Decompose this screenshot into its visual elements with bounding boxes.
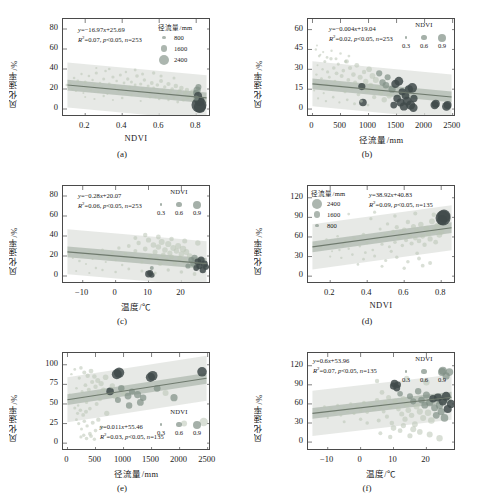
legend-title-e: NDVI — [154, 408, 204, 415]
legend-dot-e-1 — [176, 422, 181, 427]
legend-bubbles-f — [399, 362, 449, 376]
y-tick-b-4: 60 — [271, 23, 303, 33]
legend-dot-c-0 — [160, 203, 163, 206]
y-tick-e-1: 25 — [26, 417, 58, 427]
legend-bubble-d-2 — [311, 224, 323, 228]
y-axis-label-e: 风化速率/% — [8, 362, 20, 442]
legend-value-b-0: 0.3 — [399, 42, 413, 49]
equation-text-a: y=−16.97x+25.69 — [78, 25, 142, 35]
y-tick-f-2: 60 — [271, 397, 303, 407]
legend-row-a-0: 800 — [158, 32, 192, 43]
legend-value-f-0: 0.3 — [399, 376, 413, 383]
legend-dot-d-1 — [314, 211, 321, 218]
legend-row-d-0: 2400 — [311, 198, 345, 209]
panel-c: 风化速率/%020406080−1001020温度/℃(c)y=−0.28x+2… — [0, 167, 244, 334]
panel-label-e: (e) — [0, 483, 244, 493]
legend-value-f-2: 0.9 — [435, 376, 449, 383]
y-tick-d-4: 120 — [271, 191, 303, 201]
legend-a: 径流量/mm80016002400 — [158, 22, 192, 65]
legend-value-b-1: 0.6 — [417, 42, 431, 49]
x-axis-label-d: NDVI — [307, 300, 455, 310]
legend-title-f: NDVI — [399, 355, 449, 362]
legend-values-c: 0.30.60.9 — [154, 209, 204, 216]
panel-d: 风化速率/%03060901200.20.40.60.8NDVI(d)y=38.… — [245, 167, 489, 334]
legend-values-e: 0.30.60.9 — [154, 429, 204, 436]
legend-dot-f-1 — [421, 369, 426, 374]
y-axis-label-a: 风化速率/% — [8, 28, 20, 108]
equation-text-b: y=−0.004x+19.04 — [329, 24, 393, 34]
legend-value-a-1: 1600 — [174, 45, 187, 52]
legend-dot-a-0 — [162, 36, 165, 39]
legend-c: NDVI0.30.60.9 — [154, 188, 204, 216]
legend-value-f-1: 0.6 — [417, 376, 431, 383]
legend-bubble-c-0 — [154, 200, 168, 209]
equation-text-d: y=38.92x+40.83 — [369, 190, 433, 200]
equation-block-c: y=−0.28x+20.07R2=0.06, p<0.05, n=253 — [78, 191, 142, 210]
legend-dot-e-0 — [160, 423, 163, 426]
legend-dot-d-0 — [312, 199, 322, 209]
legend-bubble-f-1 — [417, 367, 431, 376]
legend-value-e-2: 0.9 — [190, 429, 204, 436]
panel-b: 风化速率/%01530456005001000150020002500径流量/m… — [245, 0, 489, 167]
stats-text-d: R2=0.09, p<0.05, n=135 — [369, 200, 433, 210]
legend-row-a-2: 2400 — [158, 54, 192, 65]
equation-text-f: y=0.6x+53.96 — [313, 356, 377, 366]
x-axis-label-c: 温度/℃ — [62, 300, 210, 312]
legend-dot-a-1 — [161, 45, 167, 51]
legend-value-e-0: 0.3 — [154, 429, 168, 436]
legend-value-c-2: 0.9 — [190, 209, 204, 216]
panel-e: 风化速率/%025507510005001000150020002500径流量/… — [0, 334, 244, 501]
stats-text-b: R2=0.02, p<0.05, n=253 — [329, 34, 393, 44]
legend-value-e-1: 0.6 — [172, 429, 186, 436]
y-tick-a-4: 80 — [26, 22, 58, 32]
x-tick-b-5: 2500 — [432, 120, 472, 130]
legend-bubble-e-1 — [172, 420, 186, 429]
legend-dot-d-2 — [315, 224, 319, 228]
panel-a: 风化速率/%0204060800.20.40.60.8NDVI(a)y=−16.… — [0, 0, 244, 167]
y-axis-label-c: 风化速率/% — [8, 195, 20, 275]
x-tick-d-3: 0.8 — [420, 287, 460, 297]
x-tick-d-0: 0.2 — [309, 287, 349, 297]
legend-dot-c-2 — [193, 201, 201, 209]
stats-text-a: R2=0.07, p<0.05, n=253 — [78, 35, 142, 45]
y-tick-b-2: 30 — [271, 62, 303, 72]
legend-bubbles-b — [399, 28, 449, 42]
figure-root: 风化速率/%0204060800.20.40.60.8NDVI(a)y=−16.… — [0, 0, 489, 502]
legend-values-b: 0.30.60.9 — [399, 42, 449, 49]
legend-bubble-e-0 — [154, 420, 168, 429]
legend-bubble-c-2 — [190, 200, 204, 209]
x-tick-a-3: 0.8 — [175, 120, 215, 130]
y-tick-f-1: 30 — [271, 416, 303, 426]
legend-bubble-a-2 — [158, 55, 170, 65]
x-axis-label-f: 温度/℃ — [307, 467, 455, 479]
panel-f: 风化速率/%0306090120−1001020温度/℃(f)y=0.6x+53… — [245, 334, 489, 501]
legend-value-d-2: 800 — [327, 222, 337, 229]
y-tick-d-2: 60 — [271, 230, 303, 240]
y-tick-e-2: 50 — [26, 397, 58, 407]
legend-dot-f-0 — [405, 370, 408, 373]
y-tick-e-4: 100 — [26, 358, 58, 368]
legend-value-c-0: 0.3 — [154, 209, 168, 216]
legend-row-a-1: 1600 — [158, 43, 192, 54]
legend-f: NDVI0.30.60.9 — [399, 355, 449, 383]
stats-text-c: R2=0.06, p<0.05, n=253 — [78, 201, 142, 211]
equation-block-a: y=−16.97x+25.69R2=0.07, p<0.05, n=253 — [78, 25, 142, 44]
legend-value-b-2: 0.9 — [435, 42, 449, 49]
panel-label-f: (f) — [245, 483, 489, 493]
legend-dot-b-2 — [438, 34, 446, 42]
y-tick-a-0: 0 — [26, 102, 58, 112]
x-tick-d-2: 0.6 — [383, 287, 423, 297]
y-axis-label-f: 风化速率/% — [253, 362, 265, 442]
legend-title-d: 径流量/mm — [311, 188, 345, 198]
y-tick-a-3: 60 — [26, 42, 58, 52]
legend-e: NDVI0.30.60.9 — [154, 408, 204, 436]
legend-bubble-e-2 — [190, 420, 204, 429]
legend-bubble-c-1 — [172, 200, 186, 209]
y-tick-c-3: 60 — [26, 209, 58, 219]
y-tick-f-4: 120 — [271, 359, 303, 369]
y-tick-c-0: 0 — [26, 269, 58, 279]
legend-bubble-a-0 — [158, 36, 170, 39]
legend-bubbles-e — [154, 415, 204, 429]
y-tick-b-1: 15 — [271, 82, 303, 92]
y-tick-d-3: 90 — [271, 210, 303, 220]
